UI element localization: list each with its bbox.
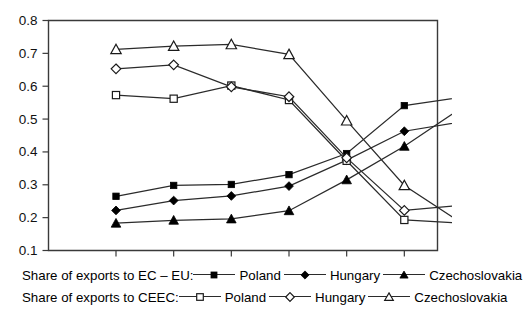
y-tick-label: 0.2 [19, 210, 38, 225]
line-chart-plot: 0.10.20.30.40.50.60.70.8 198619871988198… [0, 0, 452, 262]
filled-square-marker [170, 182, 176, 188]
open-diamond-marker [111, 64, 121, 74]
y-tick-label: 0.5 [19, 112, 38, 127]
y-tick-label: 0.6 [19, 79, 38, 94]
series-line [116, 44, 452, 223]
legend-entry-czechoslovakia-ceec[interactable]: Czechoslovakia [368, 290, 510, 305]
filled-triangle-marker [284, 206, 294, 215]
filled-diamond-marker [112, 206, 121, 215]
legend-group-title-ec-eu: Share of exports to EC – EU: [0, 268, 193, 283]
y-tick-label: 0.7 [19, 46, 38, 61]
filled-diamond-marker [400, 127, 409, 136]
legend-label: Poland [221, 290, 269, 305]
open-square-marker [170, 95, 177, 102]
filled-triangle-icon [383, 268, 425, 282]
y-tick-label: 0.8 [19, 13, 38, 28]
y-tick-label: 0.3 [19, 177, 38, 192]
series-share-of-exports-to-ceec--hungary [111, 60, 452, 215]
y-tick-label: 0.4 [19, 144, 38, 159]
legend-label: Czechoslovakia [410, 290, 510, 305]
series-line [116, 108, 452, 224]
open-diamond-marker [169, 60, 179, 70]
filled-diamond-marker [169, 196, 178, 205]
legend-entry-poland-ceec[interactable]: Poland [179, 290, 269, 305]
filled-triangle-marker [400, 142, 410, 151]
chart-axes [49, 21, 438, 251]
legend-row-ec-eu: Share of exports to EC – EU: Poland [0, 264, 452, 286]
chart-series-layer [111, 39, 452, 227]
filled-square-marker [113, 193, 119, 199]
y-tick-label: 0.1 [19, 243, 38, 258]
legend-entry-czechoslovakia-ec[interactable]: Czechoslovakia [383, 268, 525, 283]
plot-frame [49, 21, 438, 251]
legend-label: Hungary [311, 290, 368, 305]
x-axis-ticks: 1986198719881989199019911992 [101, 251, 452, 263]
series-line [116, 122, 452, 211]
filled-square-marker [286, 171, 292, 177]
legend-label: Czechoslovakia [425, 268, 525, 283]
filled-triangle-marker [342, 175, 352, 184]
open-square-marker [112, 91, 119, 98]
filled-diamond-marker [227, 192, 236, 201]
legend-group-title-ceec: Share of exports to CEEC: [0, 290, 179, 305]
legend-entry-hungary-ceec[interactable]: Hungary [269, 290, 368, 305]
open-square-marker [401, 216, 408, 223]
legend-label: Hungary [326, 268, 383, 283]
filled-square-marker [228, 181, 234, 187]
legend-label: Poland [235, 268, 283, 283]
y-axis-ticks: 0.10.20.30.40.50.60.70.8 [19, 13, 49, 258]
legend-entry-hungary-ec[interactable]: Hungary [284, 268, 383, 283]
legend-row-ceec: Share of exports to CEEC: Poland Hu [0, 286, 452, 308]
open-square-icon [179, 290, 221, 304]
filled-diamond-icon [284, 268, 326, 282]
legend-entry-poland-ec[interactable]: Poland [193, 268, 283, 283]
open-triangle-icon [368, 290, 410, 304]
open-diamond-icon [269, 290, 311, 304]
filled-diamond-marker [285, 182, 294, 191]
chart-legend: Share of exports to EC – EU: Poland [0, 262, 452, 311]
series-share-of-exports-to-ec-eu--hungary [112, 117, 452, 215]
filled-square-marker [401, 102, 407, 108]
filled-square-icon [193, 268, 235, 282]
